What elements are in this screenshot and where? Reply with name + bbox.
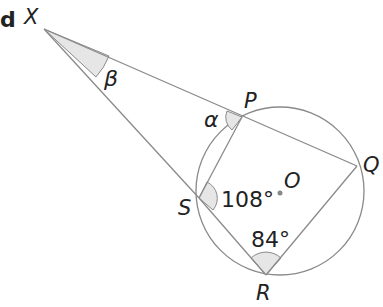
angle-label-r: 84° xyxy=(251,227,290,252)
angle-label-s: 108° xyxy=(221,187,274,212)
line-x-s xyxy=(44,29,199,198)
point-label-s: S xyxy=(178,196,191,220)
center-point xyxy=(278,191,283,196)
point-label-p: P xyxy=(244,89,257,113)
point-label-o: O xyxy=(284,169,301,193)
cyclic-quadrilateral-diagram: d X P Q R S O β α 108° 84° xyxy=(0,0,383,307)
angle-label-alpha: α xyxy=(204,107,219,132)
line-r-q xyxy=(266,166,357,275)
line-x-q xyxy=(44,29,357,166)
point-label-x: X xyxy=(23,5,39,29)
point-label-q: Q xyxy=(363,153,380,177)
angle-label-beta: β xyxy=(103,66,118,91)
angle-s-shade xyxy=(199,182,217,210)
point-label-r: R xyxy=(256,281,271,305)
part-label: d xyxy=(0,7,16,32)
